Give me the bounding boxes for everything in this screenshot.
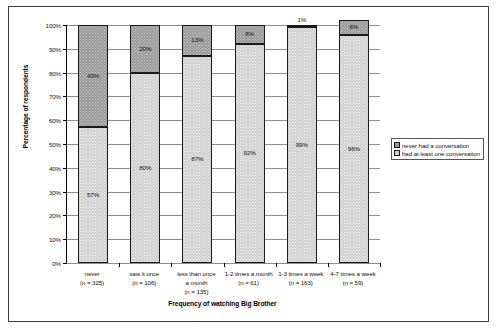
legend-swatch-icon-dark [394, 142, 400, 148]
bar-value-label: 92% [244, 150, 256, 156]
gridline [67, 73, 380, 74]
legend-label: never had a conversation [402, 142, 469, 149]
x-category-label-line: (n = 135) [165, 287, 227, 296]
bar-segment-had-at-least-one-conversation[interactable]: 92% [235, 44, 265, 263]
legend-swatch-icon-light [394, 150, 400, 156]
y-tick-mark [63, 96, 67, 97]
gridline [67, 168, 380, 169]
x-category-label: 4-7 times a week(n = 59) [322, 269, 384, 287]
bar-segment-had-at-least-one-conversation[interactable]: 80% [130, 73, 160, 263]
gridline [67, 49, 380, 50]
y-tick-label: 50% [49, 141, 61, 148]
x-tick-mark [380, 263, 381, 267]
bar-value-label: 8% [245, 31, 254, 37]
y-tick-label: 90% [49, 45, 61, 52]
y-tick-mark [63, 120, 67, 121]
y-tick-label: 10% [49, 236, 61, 243]
y-tick-label: 80% [49, 69, 61, 76]
y-tick-mark [63, 263, 67, 264]
bar-segment-had-at-least-one-conversation[interactable]: 57% [78, 127, 108, 263]
gridline [67, 144, 380, 145]
y-tick-label: 100% [46, 22, 61, 29]
y-tick-label: 60% [49, 117, 61, 124]
x-axis-title: Frequency of watching Big Brother [66, 300, 379, 307]
x-tick-mark [328, 263, 329, 267]
y-tick-mark [63, 239, 67, 240]
bar-value-label: 87% [191, 156, 203, 162]
y-tick-label: 70% [49, 93, 61, 100]
bar-value-label-outside: 1% [287, 16, 317, 23]
x-category-label-line: (n = 59) [322, 278, 384, 287]
bar-segment-never-had-a-conversation[interactable] [287, 25, 317, 27]
y-tick-mark [63, 168, 67, 169]
y-tick-mark [63, 144, 67, 145]
bar-value-label: 99% [296, 142, 308, 148]
gridline [67, 25, 380, 26]
bar-segment-never-had-a-conversation[interactable]: 43% [78, 25, 108, 127]
bar-segment-never-had-a-conversation[interactable]: 6% [339, 20, 369, 34]
bar-segment-never-had-a-conversation[interactable]: 20% [130, 25, 160, 73]
legend-item-had-at-least-one-conversation[interactable]: had at least one conversation [394, 149, 480, 157]
y-tick-mark [63, 49, 67, 50]
x-tick-mark [276, 263, 277, 267]
chart-legend: never had a conversation had at least on… [391, 138, 484, 160]
legend-item-never-had-a-conversation[interactable]: never had a conversation [394, 141, 480, 149]
bar-value-label: 20% [139, 46, 151, 52]
bar-value-label: 13% [191, 37, 203, 43]
y-tick-mark [63, 215, 67, 216]
bar-segment-had-at-least-one-conversation[interactable]: 99% [287, 27, 317, 263]
gridline [67, 239, 380, 240]
y-tick-label: 0% [52, 260, 61, 267]
bar-value-label: 57% [87, 192, 99, 198]
bar-segment-had-at-least-one-conversation[interactable]: 87% [182, 56, 212, 263]
gridline [67, 192, 380, 193]
bar-segment-never-had-a-conversation[interactable]: 8% [235, 25, 265, 44]
gridline [67, 96, 380, 97]
bar-value-label: 96% [348, 146, 360, 152]
gridline [67, 215, 380, 216]
bar-value-label: 43% [87, 73, 99, 79]
legend-label: had at least one conversation [402, 150, 480, 157]
bar-segment-never-had-a-conversation[interactable]: 13% [182, 25, 212, 56]
x-tick-mark [119, 263, 120, 267]
chart-figure-frame: Percentage of respondents 100%90%80%70%6… [8, 6, 489, 322]
gridline [67, 120, 380, 121]
bar-value-label: 6% [350, 24, 359, 30]
y-tick-label: 20% [49, 212, 61, 219]
x-tick-mark [224, 263, 225, 267]
y-tick-label: 40% [49, 164, 61, 171]
y-tick-mark [63, 192, 67, 193]
y-tick-label: 30% [49, 188, 61, 195]
y-axis-title: Percentage of respondents [22, 27, 29, 187]
y-tick-mark [63, 73, 67, 74]
bar-segment-had-at-least-one-conversation[interactable]: 96% [339, 35, 369, 263]
x-category-label-line: 4-7 times a week [322, 269, 384, 278]
y-tick-mark [63, 25, 67, 26]
plot-area: 100%90%80%70%60%50%40%30%20%10%0% 57%43%… [66, 25, 380, 264]
x-tick-mark [171, 263, 172, 267]
bar-value-label: 80% [139, 165, 151, 171]
